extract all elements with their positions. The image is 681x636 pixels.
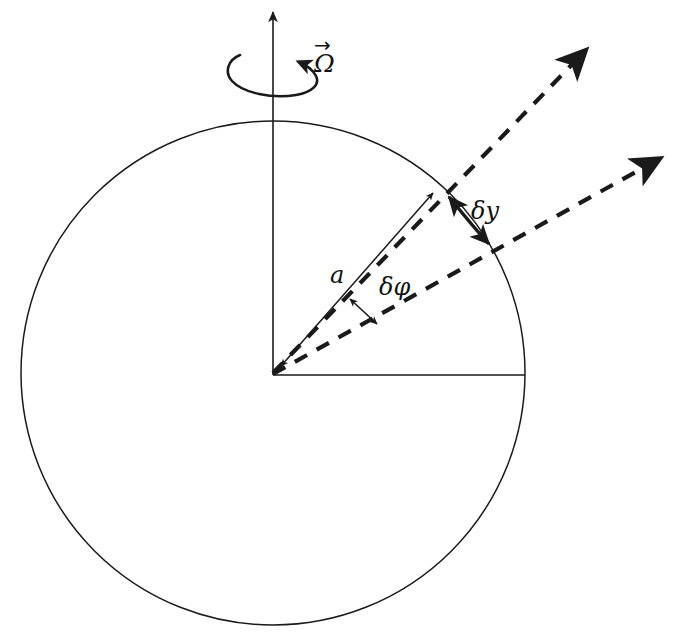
radius-label: a	[330, 261, 344, 289]
figure-canvas: → Ω a δφ δy	[0, 0, 681, 636]
delta-phi-label: δφ	[379, 273, 410, 301]
dashed-ray-arrow-icon-upper	[273, 51, 585, 373]
delta-y-label: δy	[471, 197, 499, 225]
rotating-sphere-diagram: → Ω a δφ δy	[0, 0, 681, 636]
double-headed-gap-arrow-icon	[350, 299, 377, 324]
omega-label: Ω	[313, 49, 335, 78]
omega-label-group: → Ω	[313, 33, 335, 78]
